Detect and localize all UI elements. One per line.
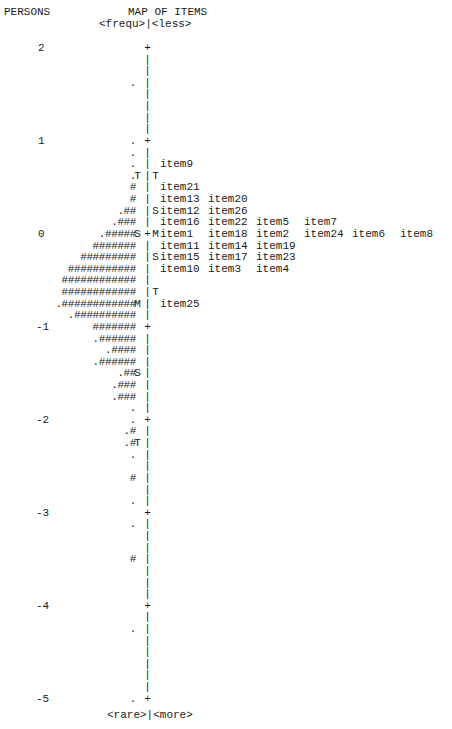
item-stat-marker: T bbox=[151, 286, 160, 298]
item-list: item10item3item4 bbox=[160, 263, 304, 275]
item-stat-marker: S bbox=[151, 251, 160, 263]
persons-axis-label: PERSONS bbox=[4, 6, 50, 18]
map-row: | bbox=[0, 112, 452, 124]
scale-tick-label: -5 bbox=[36, 693, 49, 705]
axis-line: | bbox=[143, 123, 152, 135]
axis-line: | bbox=[143, 542, 152, 554]
map-row: | bbox=[0, 88, 452, 100]
item-label: item6 bbox=[352, 228, 400, 240]
persons-distribution: .##### bbox=[99, 228, 136, 240]
map-row: | bbox=[0, 669, 452, 681]
scale-tick-label: 1 bbox=[38, 135, 45, 147]
item-list: item15item17item23 bbox=[160, 251, 304, 263]
persons-distribution: . bbox=[130, 623, 136, 635]
map-row: .T|T bbox=[0, 170, 452, 182]
axis-line: | bbox=[143, 274, 152, 286]
axis-line: | bbox=[143, 611, 152, 623]
map-row: .|item9 bbox=[0, 158, 452, 170]
axis-line: | bbox=[143, 437, 152, 449]
axis-line: | bbox=[143, 54, 152, 66]
persons-distribution: .############ bbox=[55, 298, 136, 310]
axis-line: | bbox=[143, 635, 152, 647]
item-label: item8 bbox=[400, 228, 448, 240]
item-label: item24 bbox=[304, 228, 352, 240]
map-row: .####| bbox=[0, 344, 452, 356]
axis-line: | bbox=[143, 472, 152, 484]
person-stat-marker: T bbox=[133, 437, 142, 449]
map-row: #| bbox=[0, 553, 452, 565]
map-row: .#| bbox=[0, 425, 452, 437]
item-label: item1 bbox=[160, 228, 208, 240]
persons-distribution: . bbox=[130, 449, 136, 461]
map-row: | bbox=[0, 658, 452, 670]
item-label: item16 bbox=[160, 216, 208, 228]
item-label: item4 bbox=[256, 263, 304, 275]
map-row: .###| bbox=[0, 379, 452, 391]
scale-tick-label: 2 bbox=[38, 42, 45, 54]
map-row: .| bbox=[0, 518, 452, 530]
axis-line: | bbox=[143, 344, 152, 356]
item-label: item10 bbox=[160, 263, 208, 275]
map-row: .##|Sitem12item26 bbox=[0, 205, 452, 217]
persons-distribution: ############ bbox=[62, 286, 136, 298]
item-label: item22 bbox=[208, 216, 256, 228]
map-row: .| bbox=[0, 77, 452, 89]
item-list: item25 bbox=[160, 298, 208, 310]
axis-line: | bbox=[143, 88, 152, 100]
person-stat-marker: S bbox=[133, 228, 142, 240]
axis-tick: + bbox=[143, 600, 152, 612]
person-stat-marker: T bbox=[133, 170, 142, 182]
persons-distribution: .### bbox=[111, 391, 136, 403]
axis-line: | bbox=[143, 367, 152, 379]
map-row: | bbox=[0, 577, 452, 589]
item-list: item9 bbox=[160, 158, 208, 170]
axis-line: | bbox=[143, 681, 152, 693]
axis-divider: | bbox=[145, 18, 152, 30]
map-row: ############| bbox=[0, 274, 452, 286]
map-row: -3+ bbox=[0, 507, 452, 519]
scale-tick-label: -3 bbox=[36, 507, 49, 519]
persons-distribution: . bbox=[130, 693, 136, 705]
item-label: item26 bbox=[208, 205, 256, 217]
axis-line: | bbox=[143, 193, 152, 205]
item-list: item21 bbox=[160, 181, 208, 193]
map-row: #|item21 bbox=[0, 181, 452, 193]
persons-distribution: ########### bbox=[68, 263, 136, 275]
axis-line: | bbox=[143, 309, 152, 321]
axis-tick: + bbox=[143, 135, 152, 147]
bottom-right-label: <more> bbox=[153, 709, 193, 721]
persons-distribution: .## bbox=[117, 205, 136, 217]
axis-line: | bbox=[143, 298, 152, 310]
axis-line: | bbox=[143, 263, 152, 275]
map-row: | bbox=[0, 54, 452, 66]
persons-distribution: . bbox=[130, 135, 136, 147]
item-stat-marker: M bbox=[151, 228, 160, 240]
axis-line: | bbox=[143, 658, 152, 670]
map-row: .| bbox=[0, 623, 452, 635]
axis-line: | bbox=[143, 518, 152, 530]
map-row: .###|item16item22item5item7 bbox=[0, 216, 452, 228]
person-stat-marker: M bbox=[133, 298, 142, 310]
item-list: item16item22item5item7 bbox=[160, 216, 352, 228]
axis-line: | bbox=[143, 391, 152, 403]
axis-line: | bbox=[143, 379, 152, 391]
axis-line: | bbox=[143, 356, 152, 368]
persons-distribution: .###### bbox=[93, 356, 136, 368]
persons-distribution: ####### bbox=[93, 240, 136, 252]
map-row: | bbox=[0, 530, 452, 542]
item-label: item23 bbox=[256, 251, 304, 263]
axis-tick: + bbox=[143, 42, 152, 54]
axis-tick: + bbox=[143, 414, 152, 426]
persons-distribution: .########## bbox=[68, 309, 136, 321]
item-label: item15 bbox=[160, 251, 208, 263]
map-row: -4+ bbox=[0, 600, 452, 612]
axis-line: | bbox=[143, 460, 152, 472]
item-label: item11 bbox=[160, 240, 208, 252]
map-row: 0.#####S+Mitem1item18item2item24item6ite… bbox=[0, 228, 452, 240]
axis-line: | bbox=[143, 181, 152, 193]
persons-distribution: .###### bbox=[93, 333, 136, 345]
bottom-axis-labels: <rare>|<more> bbox=[107, 709, 193, 721]
map-row: .############M|item25 bbox=[0, 298, 452, 310]
item-stat-marker: S bbox=[151, 205, 160, 217]
persons-distribution: .### bbox=[111, 216, 136, 228]
